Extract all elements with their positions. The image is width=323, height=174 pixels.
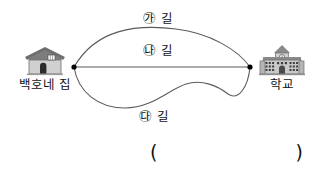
answer-blank[interactable]: ( )	[140, 138, 315, 166]
answer-paren-close: )	[296, 138, 303, 166]
path-label-na: ㉯ 길	[143, 45, 173, 58]
path-label-da: ㉰ 길	[139, 111, 169, 124]
place-house-label: 백호네 집	[6, 78, 84, 92]
school-building-icon	[257, 44, 307, 76]
house-icon	[22, 44, 68, 76]
path-label-ga: ㉮ 길	[143, 13, 173, 26]
place-school: 학교	[243, 44, 321, 92]
answer-paren-open: (	[150, 138, 157, 166]
place-house: 백호네 집	[6, 44, 84, 92]
path-curve-da	[74, 67, 250, 108]
place-school-label: 학교	[243, 78, 321, 92]
